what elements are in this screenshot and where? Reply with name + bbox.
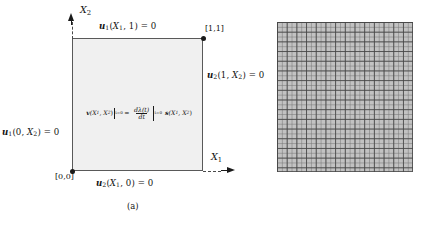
finite-element-mesh-grid xyxy=(277,22,413,172)
caption-panel-a: (a) xyxy=(127,201,139,211)
eq-fraction-denominator: dt xyxy=(136,113,146,121)
panel-a-boundary-conditions: X2 X1 [1,1] [0,0] u1(X1, 1) = 0 u2(1, X2… xyxy=(0,0,250,226)
x2-axis-label-text: X xyxy=(80,4,87,15)
corner-label-top-right: [1,1] xyxy=(205,24,224,33)
x1-axis-label: X1 xyxy=(211,151,222,164)
boundary-condition-left: u1(0, X2) = 0 xyxy=(2,127,59,137)
eq-derivative-fraction: dλ(t) dt xyxy=(132,107,151,121)
x2-axis-arrow-icon xyxy=(68,13,74,21)
eq-rhs-args-open: (X xyxy=(169,110,176,116)
x1-axis-label-subscript: 1 xyxy=(218,156,222,164)
boundary-condition-bottom: u2(X1, 0) = 0 xyxy=(96,178,153,188)
unit-square-domain xyxy=(72,38,203,171)
corner-dot-top-right xyxy=(201,36,206,41)
bc-bottom-equals: = 0 xyxy=(135,178,154,188)
bc-left-equals: = 0 xyxy=(41,127,60,137)
eq-equals-sign: = xyxy=(124,110,129,116)
eq-lhs-eval-subscript: t=0 xyxy=(115,111,123,115)
eq-fraction-eval-subscript: t=0 xyxy=(154,111,162,115)
x1-axis-arrow-icon xyxy=(227,167,235,173)
initial-condition-equation: v(X1, X2)t=0 = dλ(t) dt t=0 s(X1, X2) xyxy=(78,106,200,121)
boundary-condition-top: u1(X1, 1) = 0 xyxy=(99,21,156,31)
x1-axis-dashed-line xyxy=(203,171,221,172)
bc-top-equals: = 0 xyxy=(138,21,157,31)
x1-axis-label-text: X xyxy=(211,151,218,162)
eq-rhs-close: ) xyxy=(189,110,191,116)
x2-axis-label-subscript: 2 xyxy=(87,9,91,17)
x2-axis-label: X2 xyxy=(80,4,91,17)
panel-b-finite-element-mesh: (b) xyxy=(250,0,443,226)
figure-container: X2 X1 [1,1] [0,0] u1(X1, 1) = 0 u2(1, X2… xyxy=(0,0,443,226)
eq-rhs-mid: , X xyxy=(178,110,186,116)
corner-label-bottom-left: [0,0] xyxy=(55,172,74,181)
eq-lhs-args-open: (X xyxy=(90,110,97,116)
eq-lhs-mid: , X xyxy=(99,110,107,116)
